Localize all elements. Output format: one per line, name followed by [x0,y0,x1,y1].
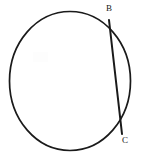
canvas-background [0,0,152,161]
geometry-canvas [0,0,152,161]
point-label-b: B [106,4,112,13]
point-label-c: C [122,136,128,145]
geometry-figure: B C [0,0,152,161]
